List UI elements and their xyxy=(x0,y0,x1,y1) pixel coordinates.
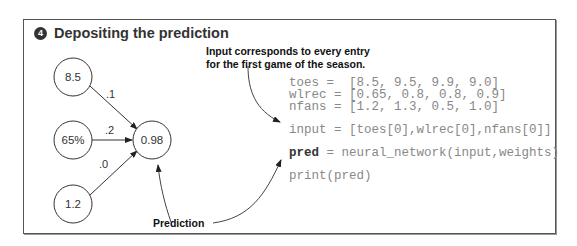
weight-2: .2 xyxy=(105,124,114,136)
svg-text:0.98: 0.98 xyxy=(141,134,163,146)
weight-3: .0 xyxy=(99,158,108,170)
code-line-print: print(pred) xyxy=(289,170,372,182)
prediction-label: Prediction xyxy=(153,217,204,230)
input-node-3: 1.2 xyxy=(54,185,92,223)
svg-text:8.5: 8.5 xyxy=(65,71,81,83)
input-node-1: 8.5 xyxy=(54,58,92,96)
prediction-arrow-to-code xyxy=(213,160,281,223)
code-line-pred: pred = neural_network(input,weights) xyxy=(289,147,559,159)
weight-1: .1 xyxy=(106,88,115,100)
edge-3 xyxy=(90,151,137,195)
svg-text:1.2: 1.2 xyxy=(65,198,81,210)
input-note-arrow xyxy=(248,66,280,122)
input-node-2: 65% xyxy=(54,121,92,159)
prediction-arrow-to-node xyxy=(158,165,171,222)
code-line-nfans: nfans = [1.2, 1.3, 0.5, 1.0] xyxy=(289,101,499,113)
input-note: Input corresponds to every entry for the… xyxy=(206,45,370,71)
code-line-input: input = [toes[0],wlrec[0],nfans[0]] xyxy=(289,124,552,136)
svg-text:65%: 65% xyxy=(61,134,84,146)
output-node: 0.98 xyxy=(133,121,171,159)
